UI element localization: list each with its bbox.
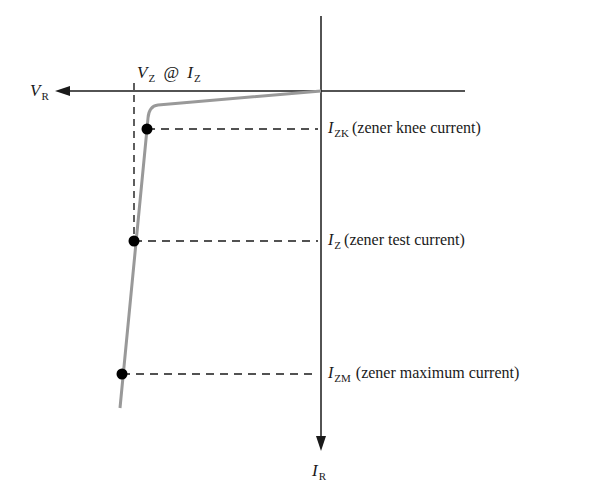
vertical-axis-arrow-icon [316,436,326,451]
ir-subscript: R [319,470,326,482]
ir-axis-label: IR [312,462,326,479]
izk-label: IZK(zener knee current) [328,120,481,136]
vr-axis-label: VR [30,82,49,99]
iz-point-subscript: Z [334,239,341,251]
horizontal-axis-arrow-icon [55,86,70,96]
zener-diagram [0,0,608,503]
ir-symbol: I [312,461,318,480]
izk-subscript: ZK [334,127,349,139]
iz-point [129,236,140,247]
vz-at-iz-label: VZ @ IZ [137,64,201,81]
izm-label: IZM(zener maximum current) [328,365,519,381]
iz-point-symbol: I [328,231,333,248]
izk-point [142,124,153,135]
vz-subscript: Z [148,72,155,84]
vr-symbol: V [30,81,40,100]
izk-description: (zener knee current) [352,119,481,136]
iz-subscript: Z [194,72,201,84]
izm-description: (zener maximum current) [356,364,519,381]
iz-symbol: I [187,63,193,82]
izm-symbol: I [328,364,333,381]
vz-symbol: V [137,63,147,82]
zener-curve [120,91,321,408]
vr-subscript: R [41,90,48,102]
izk-symbol: I [328,119,333,136]
izm-subscript: ZM [334,372,351,384]
iz-label: IZ(zener test current) [328,232,465,248]
izm-point [117,369,128,380]
at-sign: @ [163,63,179,82]
iz-description: (zener test current) [344,231,465,248]
